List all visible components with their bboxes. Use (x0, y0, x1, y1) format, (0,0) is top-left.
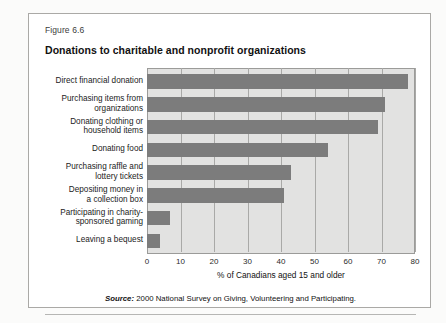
category-label-line: Donating food (0, 144, 143, 154)
bar-row (147, 116, 415, 139)
gridline (415, 68, 416, 252)
bar-row (147, 184, 415, 207)
category-label: Donating food (0, 144, 143, 154)
bar (147, 234, 160, 249)
category-label-line: organizations (0, 104, 143, 114)
bar-row (147, 207, 415, 230)
bar-row (147, 70, 415, 93)
category-label: Direct financial donation (0, 76, 143, 86)
bar (147, 97, 385, 112)
x-tick-label: 50 (310, 257, 319, 266)
category-label-line: Purchasing raffle and (0, 162, 143, 172)
source-text: 2000 National Survey on Giving, Voluntee… (134, 294, 356, 303)
x-tick-label: 70 (377, 257, 386, 266)
category-label: Participating in charity-sponsored gamin… (0, 208, 143, 227)
bar (147, 188, 284, 203)
category-label-line: Depositing money in (0, 185, 143, 195)
x-tick-label: 80 (411, 257, 420, 266)
bar (147, 165, 291, 180)
figure-container: Figure 6.6 Donations to charitable and n… (28, 13, 431, 308)
category-label-line: sponsored gaming (0, 217, 143, 227)
category-label: Purchasing raffle andlottery tickets (0, 162, 143, 181)
category-label-line: Direct financial donation (0, 76, 143, 86)
category-label-line: Purchasing items from (0, 94, 143, 104)
x-tick-label: 30 (243, 257, 252, 266)
source-note: Source: 2000 National Survey on Giving, … (29, 294, 432, 303)
bar-row (147, 93, 415, 116)
x-tick-label: 10 (176, 257, 185, 266)
category-label-line: a collection box (0, 195, 143, 205)
x-tick-label: 40 (277, 257, 286, 266)
category-label-line: household items (0, 126, 143, 136)
category-label: Purchasing items fromorganizations (0, 94, 143, 113)
bar (147, 143, 328, 158)
x-tick-label: 20 (210, 257, 219, 266)
x-tick-label: 60 (344, 257, 353, 266)
footer-divider (45, 314, 416, 315)
x-tick-label: 0 (145, 257, 149, 266)
bar-row (147, 161, 415, 184)
source-label: Source: (105, 294, 134, 303)
bar (147, 120, 378, 135)
bar-chart: Direct financial donationPurchasing item… (29, 66, 432, 309)
x-axis-title: % of Canadians aged 15 and older (147, 270, 415, 280)
category-label-line: lottery tickets (0, 172, 143, 182)
bar (147, 74, 408, 89)
figure-title: Donations to charitable and nonprofit or… (45, 44, 306, 56)
figure-number: Figure 6.6 (45, 25, 84, 35)
category-label: Depositing money ina collection box (0, 185, 143, 204)
category-label: Donating clothing orhousehold items (0, 117, 143, 136)
category-label: Leaving a bequest (0, 235, 143, 245)
category-label-line: Participating in charity- (0, 208, 143, 218)
category-label-line: Leaving a bequest (0, 235, 143, 245)
bar-row (147, 229, 415, 252)
bar-row (147, 138, 415, 161)
category-label-line: Donating clothing or (0, 117, 143, 127)
bar (147, 211, 170, 226)
